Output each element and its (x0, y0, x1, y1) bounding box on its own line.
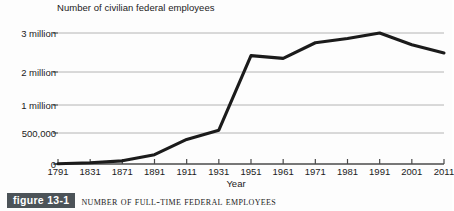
x-axis-tick-label: 1791 (47, 166, 68, 177)
x-axis-tick-label: 2011 (434, 166, 454, 177)
y-axis-tick-label: 3 million (21, 28, 56, 39)
figure-caption-text: Number of Full-Time Federal Employees (81, 195, 276, 207)
x-axis-tick-label: 1961 (273, 166, 294, 177)
x-axis-tick-label: 1931 (208, 166, 229, 177)
y-axis-labels: 0500,0001 million2 million3 million (0, 0, 56, 178)
x-axis-tick-label: 1911 (176, 166, 196, 177)
y-axis-tick-label: 1 million (21, 100, 56, 111)
x-axis-title: Year (226, 178, 245, 189)
x-axis-tick-label: 1971 (305, 166, 326, 177)
x-axis-tick-label: 1951 (240, 166, 261, 177)
x-axis-tick-label: 1871 (112, 166, 133, 177)
figure-caption-bar: figure 13-1 Number of Full-Time Federal … (7, 193, 276, 208)
plot-area (0, 0, 452, 178)
x-axis-tick-label: 1981 (337, 166, 358, 177)
y-axis-tick-label: 2 million (21, 67, 56, 78)
x-axis-tick-label: 1891 (144, 166, 165, 177)
gridlines (58, 33, 444, 133)
x-axis-tick-label: 1831 (80, 166, 101, 177)
chart-svg (0, 0, 452, 178)
figure-number-badge: figure 13-1 (7, 193, 75, 208)
data-series-line (58, 33, 444, 164)
x-axis-tick-label: 1991 (369, 166, 390, 177)
y-axis-tick-label: 500,000 (22, 128, 56, 139)
x-axis-tick-label: 2001 (401, 166, 422, 177)
x-axis (53, 33, 444, 164)
